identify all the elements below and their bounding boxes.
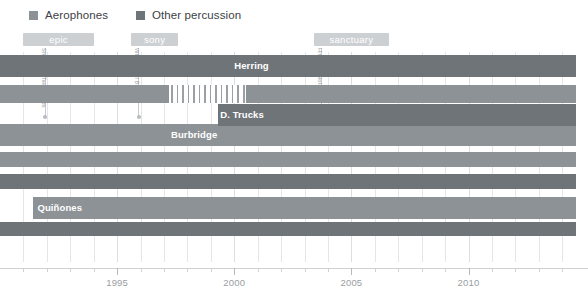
bar-hatch-stripe [226,85,228,103]
axis-tick-minor [445,268,446,272]
axis-tick-minor [258,268,259,272]
axis-tick-minor [47,268,48,272]
era-tag-epic: epic [23,33,93,46]
bar-hatch-stripe [210,85,212,103]
chart-bar[interactable] [33,197,576,219]
axis-tick-minor [539,268,540,272]
axis-tick-minor [398,268,399,272]
bar-layer: HerringD. TrucksBurbridgeQuiñones [0,52,588,262]
axis-tick-minor [328,268,329,272]
bar-hatch-stripe [204,85,206,103]
era-tag-label: sanctuary [329,34,373,45]
axis-tick-label: 2005 [340,277,362,288]
axis-tick-major [469,268,470,275]
axis-tick-label: 2010 [458,277,480,288]
axis-tick-minor [305,268,306,272]
legend-label: Other percussion [152,9,241,21]
bar-label: Burbridge [171,130,217,140]
legend-item-aerophones[interactable]: Aerophones [29,9,108,21]
bar-hatch-stripe [188,85,190,103]
bar-hatch-stripe [177,85,179,103]
era-tag-row: epic sony sanctuary [0,33,588,47]
era-tag-label: epic [49,34,68,45]
axis-tick-minor [562,268,563,272]
bar-label: Quiñones [37,203,82,213]
chart-bar[interactable] [0,55,576,77]
axis-tick-minor [23,268,24,272]
era-tag-sony: sony [131,33,178,46]
bar-hatch-stripe [215,85,217,103]
axis-tick-minor [94,268,95,272]
bar-hatch-stripe [182,85,184,103]
bar-hatch-stripe [232,85,234,103]
era-tag-sanctuary: sanctuary [314,33,389,46]
axis-tick-label: 2000 [223,277,245,288]
axis-line [0,268,588,269]
axis-tick-minor [515,268,516,272]
chart-bar[interactable] [0,152,576,167]
square-swatch-icon [136,11,145,20]
axis-tick-major [351,268,352,275]
axis-tick-minor [164,268,165,272]
chart-bar[interactable] [0,85,576,103]
bar-hatch-stripe [221,85,223,103]
legend-label: Aerophones [45,9,108,21]
axis-tick-minor [211,268,212,272]
axis-tick-minor [187,268,188,272]
axis-tick-minor [492,268,493,272]
plot-area: HerringD. TrucksBurbridgeQuiñones [0,52,588,262]
bar-hatch-stripe [171,85,173,103]
chart-bar[interactable] [0,124,576,146]
axis-tick-minor [70,268,71,272]
bar-hatch-stripe [237,85,239,103]
axis-tick-minor [281,268,282,272]
axis-tick-label: 1995 [106,277,128,288]
era-tag-label: sony [144,34,165,45]
x-axis: 1995200020052010 [0,268,588,294]
chart-root: Aerophones Other percussion epic sony sa… [0,0,588,294]
chart-bar[interactable] [0,222,576,236]
bar-gap [169,85,246,103]
legend-item-other-percussion[interactable]: Other percussion [136,9,241,21]
axis-tick-major [234,268,235,275]
bar-label: D. Trucks [220,110,264,120]
square-swatch-icon [29,11,38,20]
bar-hatch-stripe [193,85,195,103]
axis-tick-minor [141,268,142,272]
axis-tick-minor [422,268,423,272]
bar-label: Herring [234,61,268,71]
axis-tick-major [117,268,118,275]
chart-bar[interactable] [218,104,576,126]
axis-tick-minor [375,268,376,272]
bar-hatch-stripe [199,85,201,103]
chart-legend: Aerophones Other percussion [29,9,269,21]
bar-hatch-stripe [243,85,245,103]
chart-bar[interactable] [0,174,576,189]
